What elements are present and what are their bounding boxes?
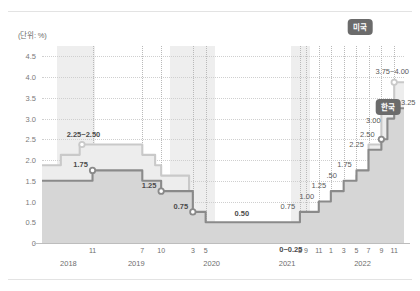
- data-value-label: 2.25: [349, 139, 364, 148]
- policy-rate-step-chart: 00.51.01.52.02.53.03.54.04.5117103589111…: [0, 0, 420, 291]
- data-value-label: 1.25: [312, 181, 327, 190]
- data-value-label: 3.25: [401, 98, 416, 107]
- data-value-label: 1.00: [299, 191, 314, 200]
- data-value-label: 2.50: [360, 130, 375, 139]
- chart-page: (단위: %) 00.51.01.52.02.53.03.54.04.51171…: [0, 0, 420, 291]
- legend-us-badge: 미국: [348, 19, 373, 35]
- data-value-label: 0.75: [174, 201, 189, 210]
- data-point-marker: [158, 188, 163, 193]
- data-value-label: .50: [326, 170, 336, 179]
- legend-kr-badge: 한국: [376, 99, 401, 115]
- data-point-marker: [391, 80, 396, 85]
- data-value-label: 1.25: [142, 181, 157, 190]
- data-value-label: 2.25~2.50: [67, 129, 101, 138]
- data-point-marker: [79, 142, 84, 147]
- data-value-label: 0~0.25: [279, 244, 302, 253]
- data-value-label: 0.50: [235, 209, 250, 218]
- data-value-label: 3.00: [366, 115, 381, 124]
- data-value-label: 1.75: [73, 160, 88, 169]
- data-value-label: 1.75: [337, 160, 352, 169]
- data-point-marker: [379, 137, 384, 142]
- data-point-marker: [190, 209, 195, 214]
- data-point-marker: [90, 168, 95, 173]
- data-value-label: 0.75: [281, 201, 296, 210]
- data-value-label: 3.75~4.00: [375, 67, 409, 76]
